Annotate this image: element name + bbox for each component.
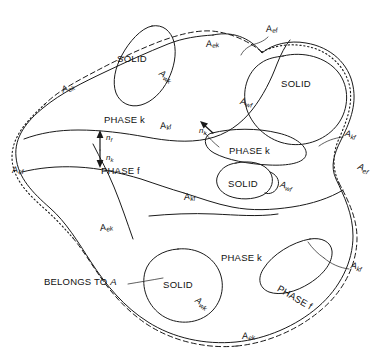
area-label-a-kf-mid-left: Akf xyxy=(183,192,195,202)
averaging-volume-diagram: PHASE k PHASE k PHASE f PHASE k PHASE f … xyxy=(0,0,384,355)
normal-vector-label-f: nf xyxy=(106,134,112,142)
area-label-a-kf-right-lower: Akf xyxy=(350,261,362,272)
solid-label-middle: SOLID xyxy=(228,179,258,189)
phase-label-k-upper: PHASE k xyxy=(104,115,145,125)
area-label-a-kf-left: Akf xyxy=(159,120,171,131)
phase-f-island-outer xyxy=(260,239,332,294)
normal-vector-label-k-right: nk xyxy=(199,127,206,135)
area-label-a-ef-left: Aef xyxy=(12,165,24,175)
solid-label-bottom: SOLID xyxy=(163,280,193,290)
belongs-to-a-label: BELONGS TO A xyxy=(44,277,117,287)
interface-kf-midrun xyxy=(184,190,343,210)
leader-belongs-to-a xyxy=(128,278,163,284)
solid-label-top-left: SOLID xyxy=(117,54,147,64)
leader-phase-f-island xyxy=(308,242,324,258)
phase-label-f-left: PHASE f xyxy=(101,166,140,176)
area-label-a-ek-top: Aek xyxy=(205,38,219,49)
leader-a-kf-right-lower xyxy=(324,258,349,269)
area-label-a-wf-upper: Awf xyxy=(239,97,253,108)
interface-kf-lower-mid xyxy=(149,214,278,216)
area-label-a-ek-bottom: Aek xyxy=(242,331,256,341)
solid-label-top-right: SOLID xyxy=(281,79,311,89)
area-label-a-kf-right-upper: Akf xyxy=(344,129,356,140)
leader-n-k-right xyxy=(205,133,219,147)
solid-inclusion-top-left xyxy=(114,26,175,106)
diagram-canvas xyxy=(0,0,384,355)
area-label-a-ek-mid-left: Aek xyxy=(99,221,113,232)
normal-vector-label-k: nk xyxy=(106,154,113,162)
averaging-boundary-dashed-k xyxy=(45,31,262,104)
area-label-a-ef-top-right: Aef xyxy=(265,23,277,33)
phase-label-k-lower: PHASE k xyxy=(221,253,262,263)
leader-a-kf-right-upper xyxy=(319,137,343,146)
averaging-boundary-dotted-right xyxy=(262,45,351,183)
averaging-boundary-dashed-midleft xyxy=(73,238,99,275)
phase-label-k-mid: PHASE k xyxy=(229,146,270,156)
